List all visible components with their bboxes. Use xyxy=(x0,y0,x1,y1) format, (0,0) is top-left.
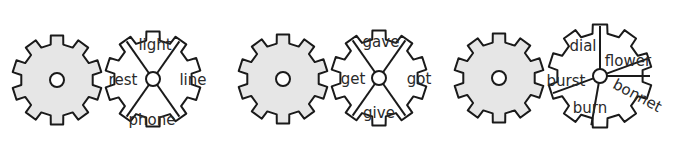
gear-hub-icon xyxy=(492,71,506,85)
gear-set-1: lightlinephonerest xyxy=(13,32,207,130)
gear-word-give: give xyxy=(363,104,395,122)
gear-word-phone: phone xyxy=(129,111,176,129)
gear-word-line: line xyxy=(179,71,206,89)
gear-hub-icon xyxy=(146,72,160,86)
gear-word-dial: dial xyxy=(569,37,596,55)
word-gear: gavegotgiveget xyxy=(332,31,432,126)
gear-word-light: light xyxy=(138,36,171,54)
gear-word-got: got xyxy=(407,70,432,88)
gear-word-burst: burst xyxy=(547,72,586,90)
gear-puzzle-diagram: lightlinephonerestgavegotgivegetdialflow… xyxy=(0,0,675,159)
word-gear: dialflowerbonnetburnburst xyxy=(547,25,665,128)
gear-hub-icon xyxy=(593,69,607,83)
gear-word-burn: burn xyxy=(573,99,607,117)
gear-set-2: gavegotgiveget xyxy=(239,31,432,126)
gear-word-gave: gave xyxy=(363,33,400,51)
gear-hub-icon xyxy=(50,73,64,87)
gear-word-get: get xyxy=(341,70,366,88)
gear-hub-icon xyxy=(276,72,290,86)
gear-word-rest: rest xyxy=(109,71,138,89)
word-gear: lightlinephonerest xyxy=(106,32,207,130)
gear-word-flower: flower xyxy=(605,52,652,70)
gear-hub-icon xyxy=(372,71,386,85)
gear-set-3: dialflowerbonnetburnburst xyxy=(455,25,665,128)
